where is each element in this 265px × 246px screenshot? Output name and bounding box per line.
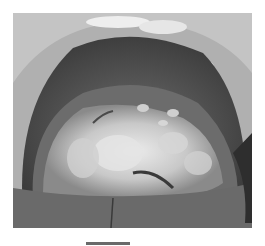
scale-bar — [86, 242, 130, 245]
oral-cavity-illustration — [13, 13, 252, 228]
medical-photograph — [13, 13, 252, 228]
